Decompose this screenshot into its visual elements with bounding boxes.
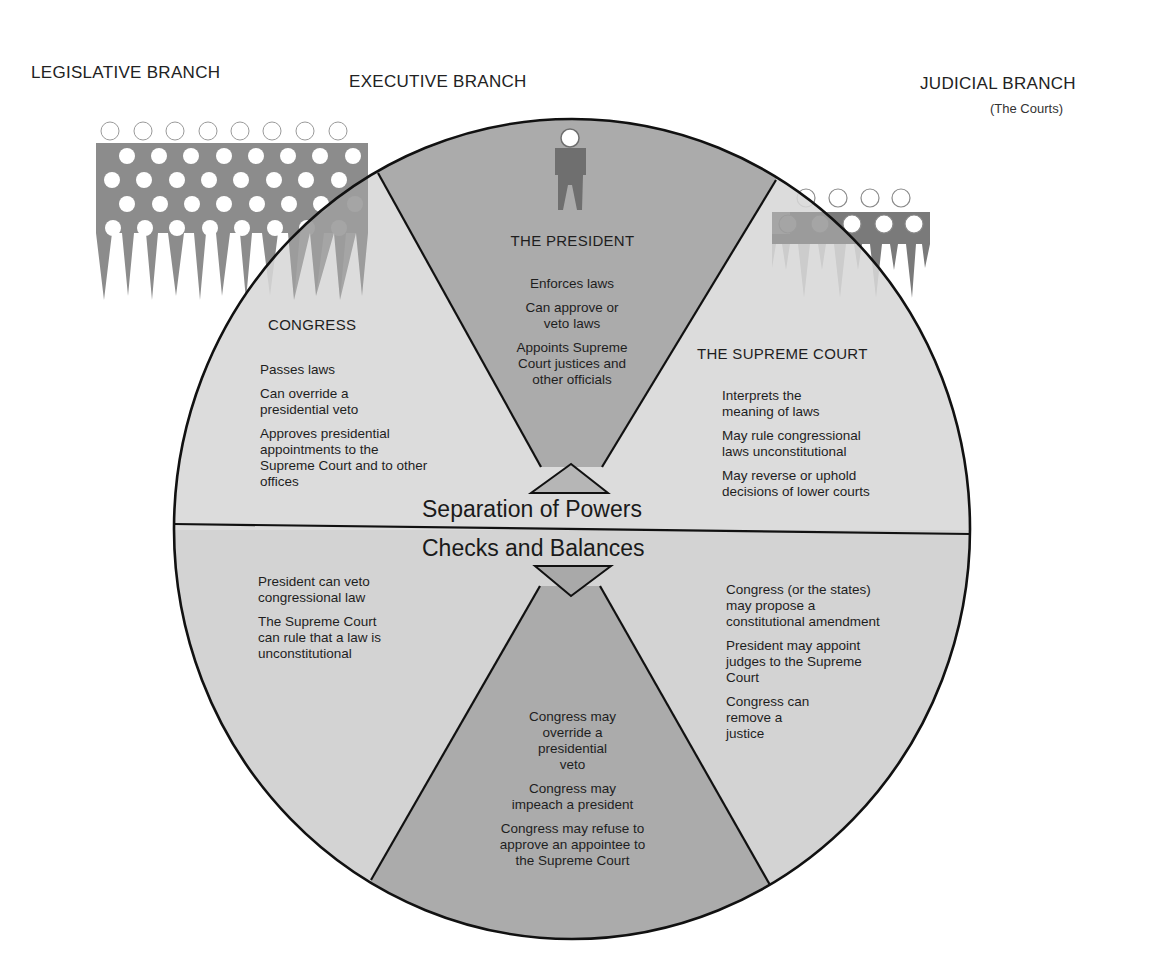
congress-powers: Passes laws Can override a presidential …	[260, 362, 425, 498]
separation-of-powers-label: Separation of Powers	[422, 496, 642, 523]
congress-power-item: Approves presidential appointments to th…	[260, 426, 432, 490]
check-item: President can veto congressional law	[258, 574, 393, 606]
president-power-item: Enforces laws	[512, 276, 632, 292]
checks-on-president: Congress may override a presidential vet…	[490, 709, 655, 877]
supreme-court-powers: Interprets the meaning of laws May rule …	[722, 388, 892, 508]
checks-on-court: Congress (or the states) may propose a c…	[726, 582, 896, 750]
check-item: Congress may override a presidential vet…	[490, 709, 655, 773]
congress-title: CONGRESS	[268, 316, 356, 333]
president-power-item: Appoints Supreme Court justices and othe…	[512, 340, 632, 388]
court-power-item: May rule congressional laws unconstituti…	[722, 428, 882, 460]
court-power-item: Interprets the meaning of laws	[722, 388, 847, 420]
check-item: Congress may refuse to approve an appoin…	[490, 821, 655, 869]
checks-and-balances-label: Checks and Balances	[422, 535, 644, 562]
congress-power-item: Passes laws	[260, 362, 425, 378]
check-item: The Supreme Court can rule that a law is…	[258, 614, 393, 662]
president-power-item: Can approve or veto laws	[512, 300, 632, 332]
supreme-court-title: THE SUPREME COURT	[697, 345, 868, 362]
congress-power-item: Can override a presidential veto	[260, 386, 390, 418]
check-item: Congress (or the states) may propose a c…	[726, 582, 891, 630]
president-title: THE PRESIDENT	[485, 232, 660, 249]
check-item: President may appoint judges to the Supr…	[726, 638, 866, 686]
president-powers: Enforces laws Can approve or veto laws A…	[512, 276, 632, 396]
court-power-item: May reverse or uphold decisions of lower…	[722, 468, 892, 500]
check-item: Congress may impeach a president	[490, 781, 655, 813]
checks-on-congress: President can veto congressional law The…	[258, 574, 393, 670]
check-item: Congress can remove a justice	[726, 694, 821, 742]
